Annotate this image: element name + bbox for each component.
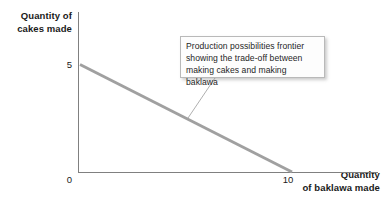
plot-area bbox=[0, 0, 382, 204]
ppf-chart-figure: Quantity of cakes made 5 0 10 Quantity o… bbox=[0, 0, 382, 204]
callout-text: Production possibilities frontier showin… bbox=[186, 40, 319, 88]
callout-box: Production possibilities frontier showin… bbox=[180, 36, 325, 78]
